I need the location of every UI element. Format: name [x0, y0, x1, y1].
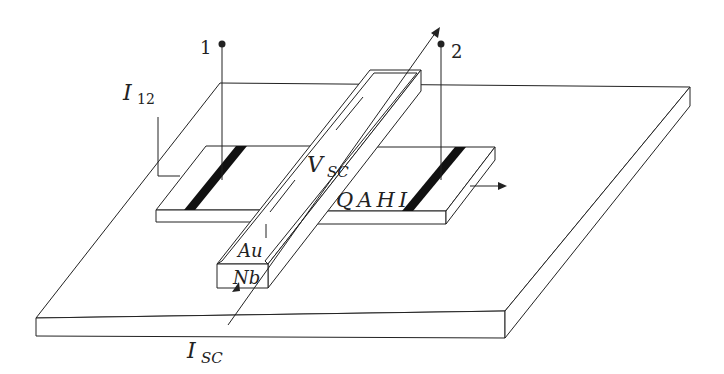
- svg-text:1: 1: [200, 37, 211, 58]
- svg-text:SC: SC: [201, 349, 223, 367]
- svg-text:12: 12: [137, 91, 155, 107]
- i12-label: I: [122, 80, 133, 105]
- svg-text:2: 2: [451, 41, 462, 62]
- qahi-label: QAHI: [336, 188, 411, 212]
- vsc-label: V: [307, 152, 325, 177]
- isc-label: I: [186, 338, 197, 363]
- svg-text:SC: SC: [327, 163, 349, 181]
- au-label: Au: [236, 240, 263, 261]
- nb-label: Nb: [232, 267, 260, 288]
- device-diagram: 1 2 I 12 V SC QAHI Au Nb I SC: [0, 0, 724, 374]
